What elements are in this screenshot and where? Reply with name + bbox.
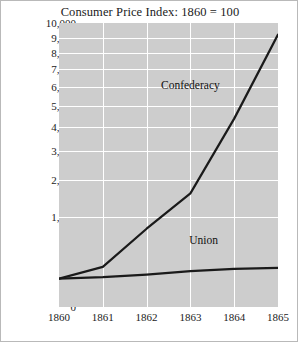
plot-area: ConfederacyUnion	[59, 23, 278, 307]
x-axis-tick-label: 1864	[223, 311, 245, 323]
chart-figure: Consumer Price Index: 1860 = 100 01,0002…	[0, 0, 298, 342]
x-axis-tick-label: 1863	[179, 311, 201, 323]
x-axis-tick-label: 1861	[92, 311, 114, 323]
series-label-confederacy: Confederacy	[161, 79, 220, 91]
x-axis-tick-label: 1862	[136, 311, 158, 323]
x-axis-tick-label: 1865	[267, 311, 289, 323]
x-axis-tick-label: 1860	[48, 311, 70, 323]
series-label-union: Union	[189, 234, 218, 246]
series-annotations: ConfederacyUnion	[59, 23, 278, 307]
x-axis: 186018611862186318641865	[59, 311, 278, 331]
